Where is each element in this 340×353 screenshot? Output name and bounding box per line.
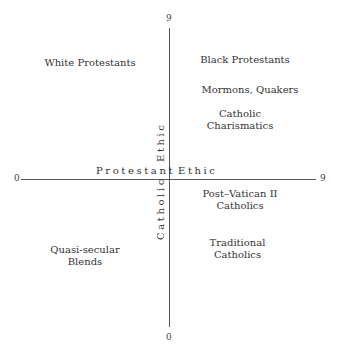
label-mormons-quakers: Mormons, Quakers xyxy=(195,84,305,96)
label-white-protestants: White Protestants xyxy=(30,57,150,69)
axis-label-ethic-horizontal: Ethic xyxy=(178,166,218,176)
axis-label-ethic-vertical: Ethic xyxy=(156,122,166,162)
axis-label-catholic: Catholic xyxy=(156,177,166,240)
label-traditional-catholics: Traditional Catholics xyxy=(200,237,275,261)
horizontal-max-tick: 9 xyxy=(320,174,326,183)
horizontal-axis-line xyxy=(21,179,316,180)
horizontal-min-tick: 0 xyxy=(14,174,20,183)
label-quasi-secular-blends: Quasi-secular Blends xyxy=(40,244,130,268)
vertical-min-tick: 0 xyxy=(166,333,172,342)
axis-label-protestant: Protestant xyxy=(96,166,175,176)
label-post-vatican-catholics: Post–Vatican II Catholics xyxy=(195,188,285,212)
vertical-max-tick: 9 xyxy=(166,14,172,23)
label-black-protestants: Black Protestants xyxy=(190,54,300,66)
vertical-axis-line xyxy=(169,28,170,327)
label-catholic-charismatics: Catholic Charismatics xyxy=(200,108,280,132)
